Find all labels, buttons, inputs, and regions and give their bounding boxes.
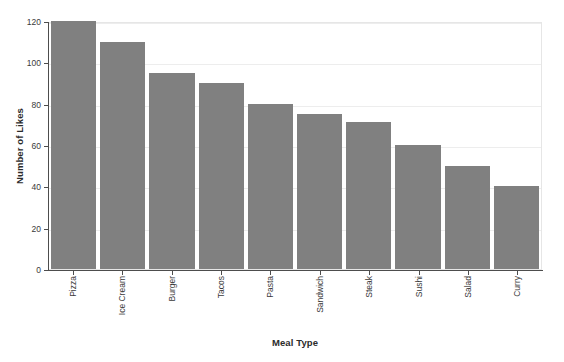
bar-salad[interactable] [445,166,490,269]
y-tick-mark [44,22,48,23]
x-tick-label-steak: Steak [364,276,374,298]
y-tick-label: 100 [1,58,41,68]
bar-ice-cream[interactable] [100,42,145,269]
bar-burger[interactable] [149,73,194,269]
x-tick-mark [517,271,518,275]
x-label-slot: Burger [147,276,196,334]
x-label-slot: Tacos [196,276,245,334]
x-label-slot: Curry [493,276,542,334]
bar-sandwich[interactable] [297,114,342,269]
bar-chart-figure: Number of Likes 020406080100120 PizzaIce… [0,0,564,362]
bar-pizza[interactable] [51,21,96,269]
bar-slot [147,23,196,269]
y-axis-line [48,22,49,271]
bar-slot [393,23,442,269]
bar-pasta[interactable] [248,104,293,269]
bar-slot [295,23,344,269]
y-tick-mark [44,63,48,64]
bar-slot [443,23,492,269]
x-tick-label-tacos: Tacos [216,276,226,298]
x-tick-mark [468,271,469,275]
x-tick-label-pizza: Pizza [68,276,78,297]
x-label-slot: Ice Cream [97,276,146,334]
x-label-slot: Salad [443,276,492,334]
y-tick-label: 60 [1,141,41,151]
x-label-slot: Sushi [394,276,443,334]
bar-slot [98,23,147,269]
bar-sushi[interactable] [395,145,440,269]
x-tick-mark [122,271,123,275]
x-label-slot: Sandwich [295,276,344,334]
x-tick-label-sandwich: Sandwich [315,276,325,313]
x-label-slot: Steak [344,276,393,334]
y-tick-label: 20 [1,224,41,234]
x-tick-mark [221,271,222,275]
y-tick-mark [44,187,48,188]
x-tick-mark [172,271,173,275]
x-tick-label-ice-cream: Ice Cream [117,276,127,315]
y-tick-mark [44,105,48,106]
x-tick-label-sushi: Sushi [414,276,424,297]
bar-steak[interactable] [346,122,391,269]
x-tick-mark [320,271,321,275]
x-tick-label-salad: Salad [463,276,473,298]
y-tick-label: 0 [1,265,41,275]
x-tick-mark [419,271,420,275]
y-tick-label: 120 [1,17,41,27]
y-tick-label: 80 [1,100,41,110]
plot-area [48,22,542,270]
x-tick-label-burger: Burger [167,276,177,302]
bar-slot [197,23,246,269]
x-label-slot: Pasta [246,276,295,334]
bar-slot [344,23,393,269]
x-label-slot: Pizza [48,276,97,334]
bar-slot [246,23,295,269]
bar-tacos[interactable] [199,83,244,269]
x-tick-mark [270,271,271,275]
y-tick-mark [44,270,48,271]
bar-curry[interactable] [494,186,539,269]
bar-slot [49,23,98,269]
x-axis-tick-labels: PizzaIce CreamBurgerTacosPastaSandwichSt… [48,276,542,334]
x-axis-title: Meal Type [48,337,542,348]
bar-series [49,23,541,269]
y-tick-mark [44,146,48,147]
x-tick-mark [73,271,74,275]
y-tick-mark [44,229,48,230]
y-tick-label: 40 [1,182,41,192]
x-tick-mark [369,271,370,275]
x-tick-label-curry: Curry [512,276,522,297]
bar-slot [492,23,541,269]
x-tick-label-pasta: Pasta [265,276,275,298]
